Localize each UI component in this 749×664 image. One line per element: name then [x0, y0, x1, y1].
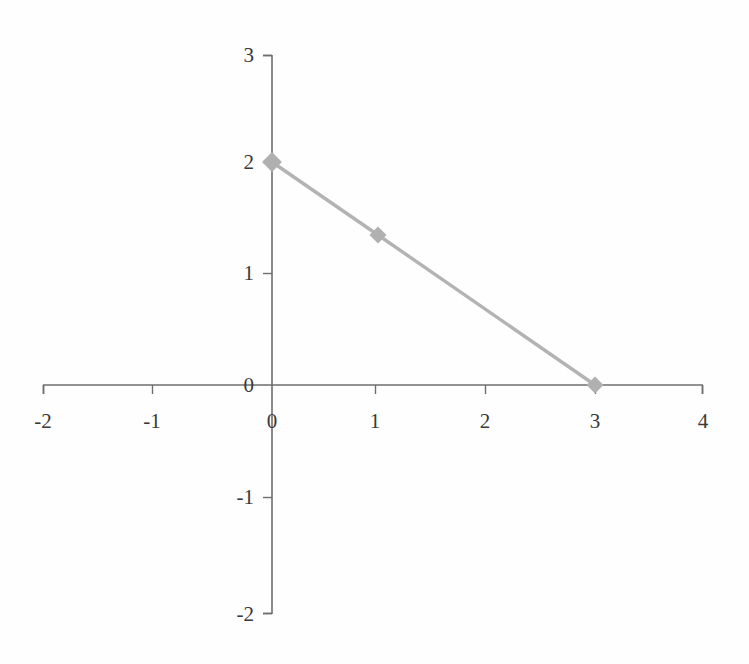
y-tick-label--1: -1 — [214, 487, 254, 508]
data-line — [272, 162, 595, 385]
y-tick-label--2: -2 — [214, 604, 254, 625]
x-tick-label-3: 3 — [590, 411, 601, 432]
y-tick-label-1: 1 — [214, 263, 254, 284]
x-tick-label--1: -1 — [143, 411, 161, 432]
x-tick-label-0: 0 — [267, 411, 278, 432]
x-axis-ticks — [44, 385, 703, 394]
y-tick-label-2: 2 — [214, 152, 254, 173]
x-tick-label-2: 2 — [480, 411, 491, 432]
y-axis-ticks — [263, 56, 272, 614]
y-tick-label-3: 3 — [214, 45, 254, 66]
plot-area — [0, 0, 749, 664]
y-tick-label-0: 0 — [214, 375, 254, 396]
chart-canvas: -2 -1 0 1 2 3 4 3 2 1 0 -1 -2 — [0, 0, 749, 664]
x-tick-label-1: 1 — [370, 411, 381, 432]
x-tick-label-4: 4 — [698, 411, 709, 432]
x-tick-label--2: -2 — [34, 411, 52, 432]
data-point-0-2 — [262, 152, 282, 172]
